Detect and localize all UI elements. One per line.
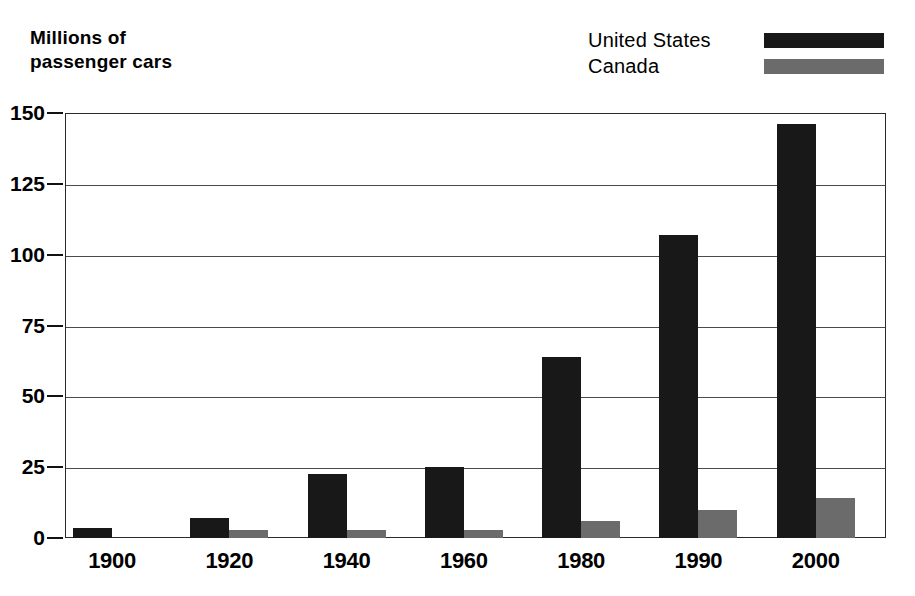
y-tick-mark-25 (47, 466, 63, 468)
x-tick-label-1940: 1940 (323, 548, 371, 574)
bar-united-states-1920 (190, 518, 229, 538)
legend-swatch-canada (764, 59, 884, 74)
legend-label-united-states: United States (588, 28, 711, 52)
bar-united-states-1980 (542, 357, 581, 538)
x-tick-label-1900: 1900 (88, 548, 136, 574)
bar-canada-1920 (229, 530, 268, 539)
bar-united-states-2000 (777, 124, 816, 538)
y-tick-label-125: 125 (10, 172, 45, 196)
y-tick-label-100: 100 (10, 243, 45, 267)
y-tick-label-150: 150 (10, 101, 45, 125)
y-tick-label-25: 25 (22, 455, 45, 479)
bar-united-states-1900 (73, 528, 112, 538)
y-tick-mark-100 (47, 254, 63, 256)
legend-swatch-united-states (764, 33, 884, 48)
x-tick-label-2000: 2000 (792, 548, 840, 574)
bar-canada-2000 (816, 498, 855, 538)
bar-canada-1980 (581, 521, 620, 538)
bar-canada-1990 (698, 510, 737, 538)
y-tick-mark-125 (47, 183, 63, 185)
y-tick-label-75: 75 (22, 314, 45, 338)
y-tick-mark-0 (47, 537, 63, 539)
bar-canada-1940 (347, 530, 386, 539)
legend-label-canada: Canada (588, 54, 659, 78)
bar-united-states-1940 (308, 474, 347, 538)
x-tick-label-1960: 1960 (440, 548, 488, 574)
y-tick-label-0: 0 (33, 526, 45, 550)
legend-item-united-states: United States (588, 28, 898, 54)
legend-item-canada: Canada (588, 54, 898, 80)
y-tick-label-50: 50 (22, 384, 45, 408)
y-axis-caption: Millions of passenger cars (30, 26, 172, 75)
y-tick-mark-50 (47, 395, 63, 397)
y-tick-mark-150 (47, 112, 63, 114)
bar-canada-1960 (464, 530, 503, 539)
y-axis: 0255075100125150 (0, 113, 65, 538)
x-tick-label-1980: 1980 (557, 548, 605, 574)
x-tick-label-1920: 1920 (205, 548, 253, 574)
chart-legend: United States Canada (588, 28, 898, 80)
y-tick-mark-75 (47, 325, 63, 327)
x-tick-label-1990: 1990 (675, 548, 723, 574)
bars-layer (65, 113, 886, 538)
bar-united-states-1990 (659, 235, 698, 538)
x-axis: 1900192019401960198019902000 (65, 548, 886, 582)
bar-united-states-1960 (425, 467, 464, 538)
